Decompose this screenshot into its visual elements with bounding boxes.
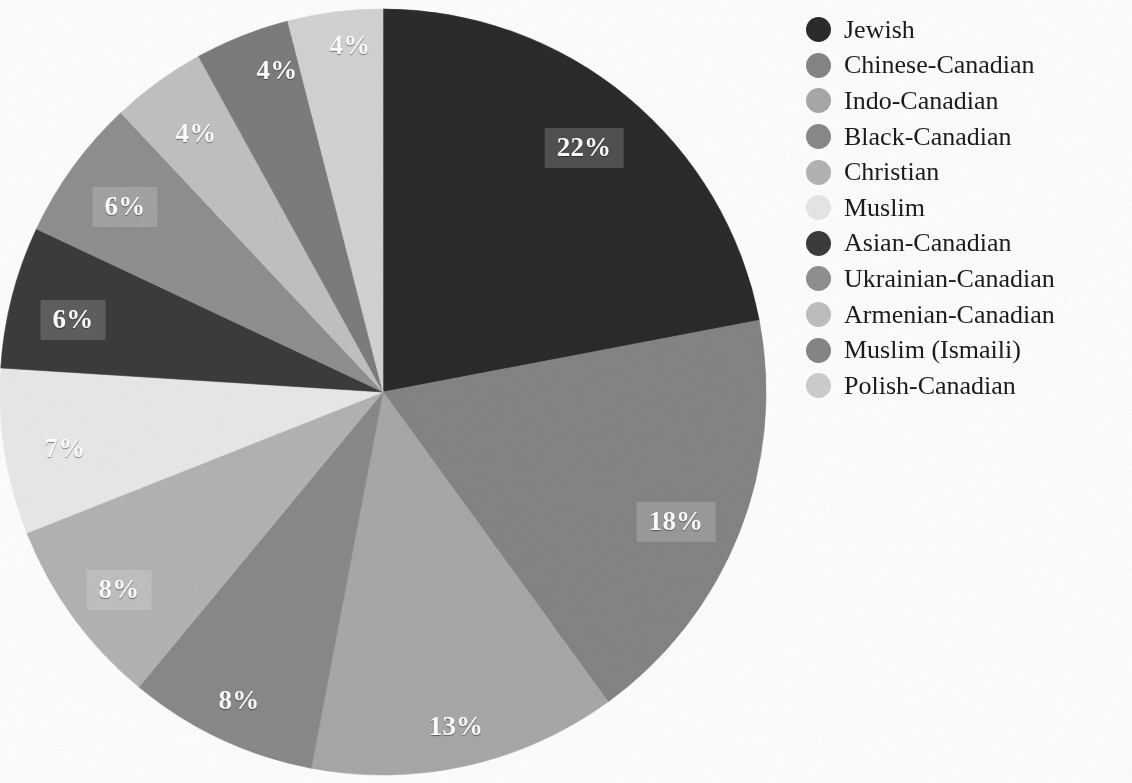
chart-legend: JewishChinese-CanadianIndo-CanadianBlack… — [806, 12, 1132, 404]
legend-item-label: Jewish — [844, 17, 915, 43]
legend-swatch-icon — [806, 124, 831, 149]
legend-swatch-icon — [806, 160, 831, 185]
legend-item-label: Polish-Canadian — [844, 373, 1016, 399]
pie-chart-svg — [0, 0, 780, 783]
legend-swatch-icon — [806, 373, 831, 398]
legend-item[interactable]: Muslim (Ismaili) — [806, 332, 1132, 368]
pie-chart-figure: 22%18%13%8%8%7%6%6%4%4%4% JewishChinese-… — [0, 0, 1132, 783]
legend-item[interactable]: Christian — [806, 154, 1132, 190]
legend-item-label: Armenian-Canadian — [844, 302, 1055, 328]
legend-item[interactable]: Muslim — [806, 190, 1132, 226]
legend-swatch-icon — [806, 266, 831, 291]
legend-swatch-icon — [806, 88, 831, 113]
legend-item-label: Muslim — [844, 195, 925, 221]
legend-item[interactable]: Asian-Canadian — [806, 226, 1132, 262]
legend-swatch-icon — [806, 195, 831, 220]
legend-swatch-icon — [806, 53, 831, 78]
legend-item-label: Ukrainian-Canadian — [844, 266, 1055, 292]
legend-item-label: Muslim (Ismaili) — [844, 337, 1021, 363]
legend-item[interactable]: Chinese-Canadian — [806, 48, 1132, 84]
legend-item[interactable]: Ukrainian-Canadian — [806, 261, 1132, 297]
legend-item[interactable]: Black-Canadian — [806, 119, 1132, 155]
pie-slice-group — [0, 9, 766, 775]
legend-item-label: Chinese-Canadian — [844, 52, 1035, 78]
legend-swatch-icon — [806, 302, 831, 327]
legend-item-label: Indo-Canadian — [844, 88, 999, 114]
pie-chart-area: 22%18%13%8%8%7%6%6%4%4%4% — [0, 0, 780, 783]
legend-item[interactable]: Polish-Canadian — [806, 368, 1132, 404]
legend-swatch-icon — [806, 338, 831, 363]
legend-item[interactable]: Indo-Canadian — [806, 83, 1132, 119]
legend-item-label: Black-Canadian — [844, 124, 1012, 150]
legend-item-label: Christian — [844, 159, 939, 185]
legend-item-label: Asian-Canadian — [844, 230, 1012, 256]
legend-swatch-icon — [806, 231, 831, 256]
legend-item[interactable]: Jewish — [806, 12, 1132, 48]
legend-swatch-icon — [806, 17, 831, 42]
legend-item[interactable]: Armenian-Canadian — [806, 297, 1132, 333]
